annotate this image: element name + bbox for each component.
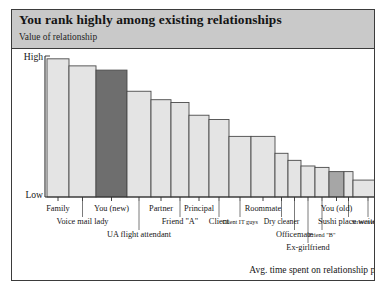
bar — [353, 180, 374, 197]
category-label: Family — [46, 204, 70, 213]
category-label: Dry cleaner — [264, 217, 300, 226]
bar — [315, 167, 329, 197]
bar — [209, 119, 229, 197]
category-label: Street vendor — [351, 218, 374, 225]
chart-title: You rank highly among existing relations… — [19, 12, 282, 28]
y-axis-low-label: Low — [25, 189, 43, 200]
bar — [127, 91, 151, 197]
category-label: Client IT guys — [222, 218, 258, 225]
x-axis-caption: Avg. time spent on relationship per week — [249, 265, 374, 275]
category-label: Principal — [184, 204, 215, 213]
bar — [275, 153, 288, 197]
bar — [69, 66, 96, 197]
x-axis-caption-text: Avg. time spent on relationship per week — [249, 265, 374, 275]
bar — [251, 136, 275, 197]
category-label: Partner — [149, 204, 173, 213]
bar-series — [47, 59, 374, 197]
bar — [171, 103, 189, 197]
bar — [301, 166, 315, 197]
x-axis — [45, 197, 374, 201]
category-label: Friend "B" — [309, 231, 336, 238]
category-label: You (old) — [321, 204, 353, 213]
bar — [96, 70, 127, 197]
category-labels: FamilyVoice mail ladyYou (new)UA flight … — [46, 204, 374, 252]
category-label: Voice mail lady — [57, 217, 110, 226]
bar — [329, 172, 344, 197]
bar — [288, 160, 301, 197]
chart-figure: You rank highly among existing relations… — [11, 9, 375, 281]
chart-header: You rank highly among existing relations… — [12, 10, 374, 49]
chart-plot-area: HighLow FamilyVoice mail ladyYou (new)UA… — [12, 49, 374, 281]
category-label: You (new) — [94, 204, 129, 213]
category-label: Friend "A" — [162, 217, 199, 226]
bar — [229, 136, 251, 197]
bar — [151, 100, 171, 197]
bar — [47, 59, 69, 197]
y-axis-high-label: High — [24, 51, 43, 62]
bar — [189, 115, 209, 197]
y-axis: HighLow — [24, 51, 50, 200]
category-label: Ex-girlfriend — [286, 243, 330, 252]
bar-chart-svg: HighLow FamilyVoice mail ladyYou (new)UA… — [12, 49, 374, 281]
category-label: UA flight attendant — [107, 230, 172, 239]
category-label: Roommate — [245, 204, 282, 213]
chart-subtitle: Value of relationship — [19, 32, 97, 42]
bar — [344, 172, 353, 197]
